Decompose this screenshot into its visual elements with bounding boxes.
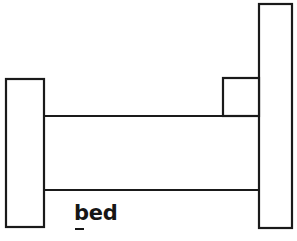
bed-footboard-shape	[6, 79, 44, 227]
figure-canvas: bed	[0, 0, 297, 241]
figure-caption: bed	[74, 203, 117, 224]
caption-underline-mark	[75, 228, 84, 230]
bed-headboard-shape	[259, 4, 292, 228]
bed-pillow-step-shape	[223, 78, 259, 116]
bed-line-drawing	[0, 0, 297, 241]
